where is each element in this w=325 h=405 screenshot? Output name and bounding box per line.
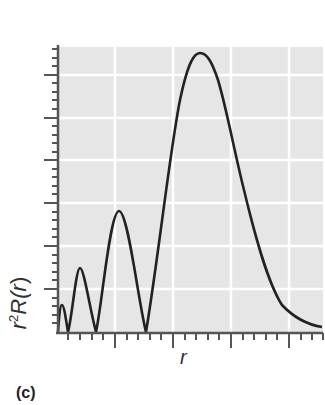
y-label-R: R( (6, 291, 31, 314)
radial-distribution-chart (0, 0, 325, 405)
y-ticks (44, 49, 58, 323)
panel-label: (c) (16, 384, 36, 402)
y-label-r: r (6, 322, 31, 329)
y-label-close: ) (6, 277, 31, 284)
y-label-var: r (6, 284, 31, 291)
x-axis-label: r (180, 346, 187, 369)
y-label-exponent: 2 (6, 315, 21, 322)
y-axis-label: r2R(r) (2, 105, 32, 175)
x-ticks (68, 333, 323, 348)
